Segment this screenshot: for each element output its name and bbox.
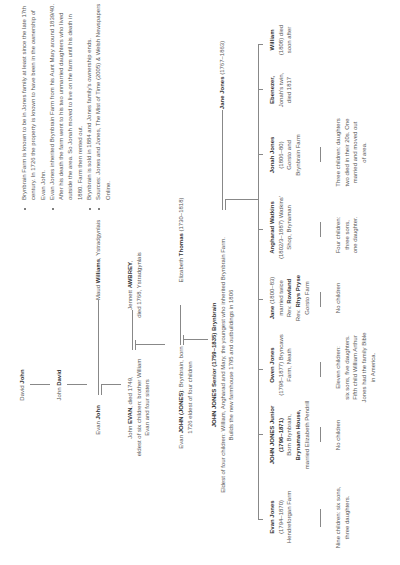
child-angharad-watkins: Angharad Watkins (1802/3–1887) Watkins' …	[268, 185, 294, 270]
detail: three sons,	[343, 205, 352, 265]
surname: John	[95, 405, 101, 419]
name: Angharad Watkins	[268, 185, 277, 270]
detail: married and moved out	[351, 105, 360, 200]
surname: Jones	[219, 77, 225, 94]
connector-line	[67, 384, 87, 385]
title: Rev.	[295, 308, 301, 322]
descendants-owen-jones: Eleven children: six sons, five daughter…	[334, 320, 377, 415]
notes-list: Brynbrain Farm is known to be in Jones f…	[20, 0, 113, 210]
person-david-john: David John	[18, 355, 27, 415]
first-name: Evan	[95, 421, 101, 435]
name: Ebenezer,	[268, 62, 277, 118]
name: William	[268, 15, 277, 65]
spouse: Rhys Pryse	[295, 275, 301, 308]
detail: eldest of six children: brother William	[135, 350, 144, 465]
detail: Builds the new farmhouse 1795 and outbui…	[227, 210, 236, 520]
person-jane-jones: Jane Jones (1767–1863)	[218, 40, 227, 110]
detail: Shop, Brynaman	[285, 185, 294, 270]
title: Rev.	[286, 304, 292, 318]
person-maud-williams: Maud Williams, Ystradgynlais	[94, 220, 103, 300]
first-name: Jane	[219, 96, 225, 110]
person-evan-john-jones: Evan JOHN (JONES): Brynbrain, born 1726 …	[177, 345, 194, 450]
detail: Evan and four sisters	[143, 350, 152, 465]
note-item: Brynbrain is sold in 1884 and Jones fami…	[85, 0, 94, 200]
surname: AWBREY	[127, 262, 133, 288]
detail: (1802/3–1887) Watkins'	[277, 185, 286, 270]
detail: Farm, Neath	[285, 325, 294, 405]
note-item: Evan Jones inherited Brynbrain Farm from…	[48, 0, 85, 200]
detail: of area.	[360, 105, 369, 200]
detail: : Brynbrain, born	[178, 346, 184, 390]
surname: John	[19, 369, 25, 383]
detail: ,	[127, 260, 133, 262]
person-john-evan: John EVAN, died 1749, eldest of six chil…	[126, 350, 152, 465]
name: JOHN JONES Senior (1759–1835) Brynbrain	[210, 210, 219, 520]
descendant-connector	[320, 222, 321, 237]
child-william: William (1808) died soon after	[268, 15, 294, 65]
descendants-jane: No children	[334, 263, 343, 333]
marriage-line	[135, 340, 136, 350]
note-item: Sources: Jones and Jones, The Mist of Ti…	[94, 0, 113, 200]
connector-line	[225, 199, 258, 200]
dates: (1800–83)	[269, 277, 275, 306]
dates: (1730–1818)	[178, 197, 184, 233]
detail: (1798–1877) Bryncaws	[277, 325, 286, 405]
name: Jonah Jones	[268, 120, 277, 190]
child-tick	[258, 154, 263, 155]
first-name: Elizabeth	[178, 258, 184, 283]
detail: six sons, five daughters.	[343, 320, 352, 415]
child-evan-jones: Evan Jones (1794–1870) Hendreforgan Farm	[268, 487, 294, 547]
descendant-connector	[320, 509, 321, 527]
detail: (1806–80)	[277, 120, 286, 190]
spouse: Rowland	[286, 279, 292, 304]
child-owen-jones: Owen Jones (1798–1877) Bryncaws Farm, Ne…	[268, 325, 294, 405]
surname: EVAN	[127, 408, 133, 424]
surname: JOHN (JONES)	[178, 391, 184, 434]
marriage-line	[98, 300, 99, 395]
descendants-angharad-watkins: Four children: three sons, one daughter.	[334, 205, 360, 265]
descendants-evan-jones: Nine children: six sons, three daughters…	[334, 480, 351, 555]
child-tick	[258, 299, 263, 300]
detail: in America.	[369, 320, 378, 415]
first-name: Evan	[178, 435, 184, 449]
dates: (1767–1863)	[219, 41, 225, 77]
person-jennett-awbrey: Jennett AWBREY, died 1768, Ystradgynlais	[126, 245, 143, 325]
place: , Ystradgynlais	[95, 220, 101, 259]
child-jane: Jane (1800–83) married twice Rev. Rowlan…	[268, 263, 311, 333]
connector-line	[30, 384, 50, 385]
person-john-david: John David	[55, 355, 64, 415]
detail: Eleven children:	[334, 320, 343, 415]
detail: two died in their 20s. One	[343, 105, 352, 200]
descendant-connector	[320, 147, 321, 162]
detail: Gorsto Farm	[303, 263, 312, 333]
child-ebenezer: Ebenezer, Jonah's twin, died 1817	[268, 62, 294, 118]
child-tick	[258, 89, 263, 90]
detail: Fifth child William Arthur	[351, 320, 360, 415]
detail: married Elizabeth Pendrill	[303, 385, 312, 485]
connector-line	[183, 339, 208, 340]
marriage-line	[225, 200, 226, 210]
detail: one daughter.	[351, 205, 360, 265]
marriage-line	[180, 305, 181, 345]
descendant-connector	[320, 427, 321, 442]
child-tick	[258, 369, 263, 370]
name: Evan Jones	[268, 487, 277, 547]
first-name: John	[56, 388, 62, 401]
person-elizabeth-thomas: Elizabeth Thomas (1730–1818)	[177, 195, 186, 285]
surname: Williams	[95, 259, 101, 283]
first-name: John	[127, 426, 133, 439]
detail: Eldest of four children: William, Anghar…	[219, 210, 228, 520]
notes-panel: Brynbrain Farm is known to be in Jones f…	[20, 0, 113, 210]
detail: No children	[334, 263, 343, 333]
first-name: Jennett	[127, 290, 133, 310]
person-evan-john: Evan John	[94, 395, 103, 445]
child-tick	[258, 44, 263, 45]
place: Brynaman House,	[294, 385, 303, 485]
child-tick	[258, 519, 263, 520]
surname: David	[56, 369, 62, 385]
detail: Jones had the family Bible	[360, 320, 369, 415]
detail: Gorsto and	[285, 120, 294, 190]
descendant-connector	[320, 362, 321, 377]
connector-line	[135, 344, 165, 345]
child-tick	[258, 434, 263, 435]
